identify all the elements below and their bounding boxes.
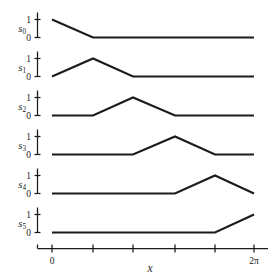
y-tick-label-1-s0: 1 — [26, 15, 31, 25]
panel-label-s2: s2 — [18, 101, 26, 115]
panel-label-s3: s3 — [18, 140, 26, 154]
y-tick-label-0-s5: 0 — [26, 228, 31, 238]
panel-label-s0: s0 — [18, 23, 26, 37]
y-tick-label-0-s3: 0 — [26, 150, 31, 160]
y-tick-label-1-s3: 1 — [26, 132, 31, 142]
x-axis-title: x — [146, 262, 153, 274]
x-tick-label-0: 0 — [50, 256, 55, 266]
y-tick-label-0-s1: 0 — [26, 72, 31, 82]
panel-label-s1: s1 — [18, 62, 26, 76]
panel-label-s4: s4 — [18, 179, 26, 193]
y-tick-label-1-s4: 1 — [26, 171, 31, 181]
series-line-s5 — [52, 215, 254, 233]
panel-label-s5: s5 — [18, 218, 26, 232]
series-line-s0 — [52, 20, 254, 38]
panel-s2: s2 1 0 — [18, 91, 254, 121]
y-tick-label-0-s2: 0 — [26, 111, 31, 121]
y-tick-label-1-s2: 1 — [26, 93, 31, 103]
panel-s3: s3 1 0 — [18, 130, 254, 160]
panel-s5: s5 1 0 — [18, 208, 254, 238]
series-line-s2 — [52, 98, 254, 116]
panel-s0: s0 1 0 — [18, 13, 254, 43]
y-tick-label-1-s1: 1 — [26, 54, 31, 64]
series-line-s4 — [52, 176, 254, 194]
x-axis: 0 2π x — [38, 245, 269, 275]
y-tick-label-0-s0: 0 — [26, 33, 31, 43]
y-tick-label-1-s5: 1 — [26, 210, 31, 220]
figure-container: s0 1 0 s1 1 0 s2 1 0 — [0, 0, 277, 277]
y-tick-label-0-s4: 0 — [26, 189, 31, 199]
panel-s1: s1 1 0 — [18, 52, 254, 82]
series-line-s1 — [52, 59, 254, 77]
panel-s4: s4 1 0 — [18, 169, 254, 199]
basis-function-plot: s0 1 0 s1 1 0 s2 1 0 — [0, 0, 277, 277]
series-line-s3 — [52, 137, 254, 155]
x-tick-label-5: 2π — [249, 256, 259, 266]
